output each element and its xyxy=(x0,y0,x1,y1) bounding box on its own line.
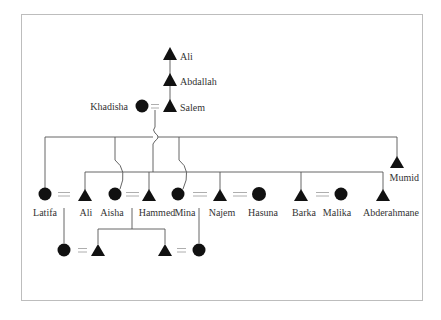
female-circle-icon xyxy=(193,244,206,257)
diagram-frame xyxy=(22,15,423,301)
male-triangle-icon xyxy=(376,189,390,201)
marriage-equals-icon xyxy=(233,193,247,197)
drop-aisha xyxy=(115,137,123,189)
person-label-hammed: Hammed xyxy=(139,207,176,218)
male-triangle-icon xyxy=(78,189,92,201)
male-triangle-icon xyxy=(163,73,177,86)
male-triangle-icon xyxy=(213,189,227,201)
female-circle-icon xyxy=(172,188,185,201)
male-triangle-icon xyxy=(142,189,156,201)
marriage-equals-icon xyxy=(58,193,70,197)
person-label-ali: Ali xyxy=(80,207,93,218)
person-label-abderahmane: Abderahmane xyxy=(363,207,420,218)
person-label-ali-elder: Ali xyxy=(180,51,193,62)
marriage-equals-icon xyxy=(126,193,139,197)
male-triangle-icon xyxy=(163,47,177,60)
descent-line-marriage xyxy=(153,110,158,172)
person-label-aisha: Aisha xyxy=(100,207,124,218)
marriage-equals-icon xyxy=(177,249,186,253)
marriage-equals-icon xyxy=(193,193,207,197)
female-circle-icon xyxy=(39,188,52,201)
male-triangle-icon xyxy=(158,244,172,256)
female-circle-icon xyxy=(136,100,149,113)
kinship-diagram: Ali Abdallah Khadisha Salem Mumid xyxy=(0,0,441,320)
male-triangle-icon xyxy=(390,156,404,168)
person-label-mina: Mina xyxy=(174,207,196,218)
female-circle-icon xyxy=(58,244,71,257)
person-label-mumid: Mumid xyxy=(390,172,419,183)
male-triangle-icon xyxy=(163,99,177,112)
male-triangle-icon xyxy=(91,244,105,256)
person-label-abdallah: Abdallah xyxy=(180,76,217,87)
male-triangle-icon xyxy=(294,189,308,201)
person-label-najem: Najem xyxy=(209,207,236,218)
person-label-barka: Barka xyxy=(292,207,316,218)
drop-mina xyxy=(179,137,187,189)
person-label-malika: Malika xyxy=(323,207,352,218)
person-label-salem: Salem xyxy=(180,102,205,113)
female-circle-icon xyxy=(109,188,122,201)
person-label-khadisha: Khadisha xyxy=(90,101,128,112)
marriage-equals-icon xyxy=(316,193,329,197)
marriage-equals-icon xyxy=(78,249,87,253)
person-label-latifa: Latifa xyxy=(33,207,57,218)
female-circle-icon xyxy=(335,188,348,201)
person-label-hasuna: Hasuna xyxy=(248,207,279,218)
female-circle-icon xyxy=(252,187,266,201)
marriage-equals-icon xyxy=(151,105,159,109)
